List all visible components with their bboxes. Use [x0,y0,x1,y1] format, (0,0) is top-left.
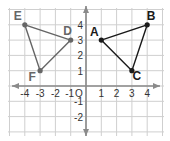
x-tick-label: -3 [36,88,45,99]
x-axis-right-arrow-icon [153,83,160,89]
x-tick-label: -2 [51,88,60,99]
y-tick-label: 3 [77,35,83,46]
vertex-label-b: B [147,9,156,23]
y-tick-label: 4 [77,20,83,31]
coordinate-grid-svg: -4-3-2-11234O4321-1-2ABCDEF [0,0,170,141]
y-tick-label: 1 [77,66,83,77]
y-tick-label: 2 [77,50,83,61]
x-tick-label: -4 [20,88,29,99]
vertex-label-e: E [14,9,22,23]
y-tick-label: -1 [74,96,83,107]
vertex-label-c: C [133,69,142,83]
y-axis-down-arrow-icon [83,129,89,136]
x-axis-left-arrow-icon [12,83,19,89]
triangle-abc [101,25,147,71]
vertex-label-f: F [28,70,35,84]
x-tick-label: 4 [144,88,150,99]
y-tick-label: -2 [74,112,83,123]
vertex-label-a: A [90,25,99,39]
vertex-point-a [99,38,104,43]
vertex-point-d [68,38,73,43]
vertex-point-f [38,68,43,73]
x-tick-label: 1 [99,88,105,99]
vertex-point-b [145,22,150,27]
x-tick-label: 3 [129,88,135,99]
coordinate-plane: -4-3-2-11234O4321-1-2ABCDEF [0,0,170,141]
vertex-label-d: D [63,24,72,38]
vertex-point-e [22,22,27,27]
x-tick-label: 2 [114,88,120,99]
